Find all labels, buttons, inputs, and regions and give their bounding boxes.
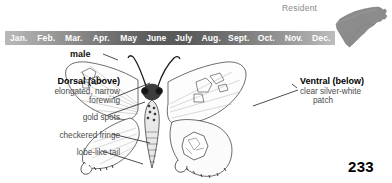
month-oct: Oct.	[253, 33, 281, 43]
annotation-lobe-like-tail: lobe-like tail	[0, 148, 120, 157]
month-nov: Nov.	[280, 33, 308, 43]
annotation-gold-spots: gold spots	[0, 113, 120, 122]
month-feb: Feb.	[33, 33, 61, 43]
page-number: 233	[348, 158, 374, 175]
month-apr: Apr.	[88, 33, 116, 43]
month-june: June	[143, 33, 171, 43]
annotation-ventral-line1: clear silver-white	[300, 87, 392, 96]
month-july: July	[170, 33, 198, 43]
residency-status-label: Resident	[282, 3, 317, 13]
annotation-dorsal-heading: Dorsal (above)	[0, 76, 120, 86]
annotation-ventral-heading: Ventral (below)	[300, 76, 392, 86]
month-sept: Sept.	[225, 33, 253, 43]
month-jan: Jan.	[5, 33, 33, 43]
annotation-ventral-line2: patch	[313, 96, 392, 105]
annotation-checkered-fringe: checkered fringe	[0, 131, 120, 140]
annotation-dorsal-line1: elongated, narrow	[0, 87, 120, 96]
field-guide-page: Resident Jan. Feb. Mar. Apr. May June Ju…	[0, 0, 392, 183]
annotation-dorsal-line2: forewing	[0, 96, 120, 105]
month-may: May	[115, 33, 143, 43]
month-aug: Aug.	[198, 33, 226, 43]
flight-period-bar: Jan. Feb. Mar. Apr. May June July Aug. S…	[5, 31, 335, 45]
month-mar: Mar.	[60, 33, 88, 43]
month-dec: Dec.	[308, 33, 336, 43]
